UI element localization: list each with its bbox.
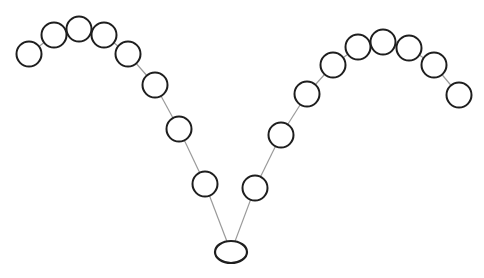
node-r9 bbox=[447, 83, 472, 108]
node-r5 bbox=[346, 35, 371, 60]
node-l1 bbox=[17, 42, 42, 67]
node-l8 bbox=[193, 172, 218, 197]
node-r7 bbox=[397, 36, 422, 61]
node-chain-diagram bbox=[0, 0, 484, 278]
node-r4 bbox=[321, 53, 346, 78]
node-r2 bbox=[269, 123, 294, 148]
node-r8 bbox=[422, 53, 447, 78]
node-l7 bbox=[167, 117, 192, 142]
node-l3 bbox=[67, 17, 92, 42]
node-r6 bbox=[371, 30, 396, 55]
node-l4 bbox=[92, 23, 117, 48]
node-l5 bbox=[116, 42, 141, 67]
nodes bbox=[17, 17, 472, 264]
node-r1 bbox=[243, 176, 268, 201]
node-r3 bbox=[295, 82, 320, 107]
node-l6 bbox=[143, 73, 168, 98]
root-ellipse bbox=[215, 241, 247, 263]
node-l2 bbox=[42, 23, 67, 48]
connector-lines bbox=[29, 29, 459, 252]
